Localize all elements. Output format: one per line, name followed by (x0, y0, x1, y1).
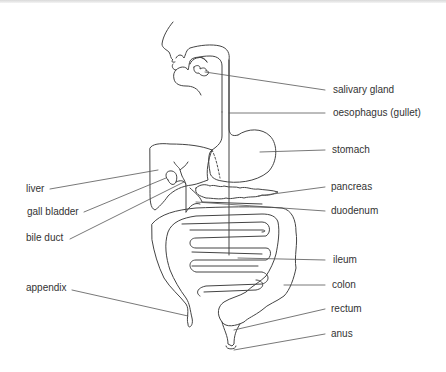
label-bile-duct: bile duct (26, 232, 63, 244)
leader-liver (50, 170, 158, 189)
pharynx-inner (190, 56, 222, 112)
liver-shape (150, 144, 212, 210)
digestive-system-diagram (0, 0, 446, 372)
leader-anus (234, 334, 325, 350)
colon-outer (152, 207, 297, 327)
leader-gall-bladder (84, 178, 166, 212)
leader-pancreas (258, 187, 325, 196)
label-salivary-gland: salivary gland (333, 84, 394, 96)
anus-shape (226, 346, 236, 349)
oesophagus-shape (212, 112, 222, 150)
gall-bladder-shape (166, 171, 177, 185)
leader-stomach (260, 150, 325, 152)
label-colon: colon (332, 279, 356, 291)
label-pancreas: pancreas (331, 181, 372, 193)
leader-duodenum (196, 202, 325, 211)
stomach-liver-overlap (212, 150, 220, 178)
pancreas-shape (196, 185, 278, 199)
label-gall-bladder: gall bladder (27, 206, 79, 218)
label-ileum: ileum (333, 254, 357, 266)
label-duodenum: duodenum (331, 205, 378, 217)
label-oesophagus: oesophagus (gullet) (333, 107, 421, 119)
small-intestine-shape (182, 222, 271, 296)
leader-salivary-gland (205, 72, 325, 90)
bile-ducts (174, 162, 188, 212)
label-stomach: stomach (332, 144, 370, 156)
label-liver: liver (26, 183, 44, 195)
salivary-gland-shape (194, 66, 209, 76)
stomach-shape (209, 130, 276, 182)
oesophagus-outer (229, 60, 238, 136)
leader-appendix (72, 290, 188, 316)
label-rectum: rectum (331, 303, 362, 315)
label-anus: anus (331, 328, 353, 340)
label-appendix: appendix (26, 282, 67, 294)
